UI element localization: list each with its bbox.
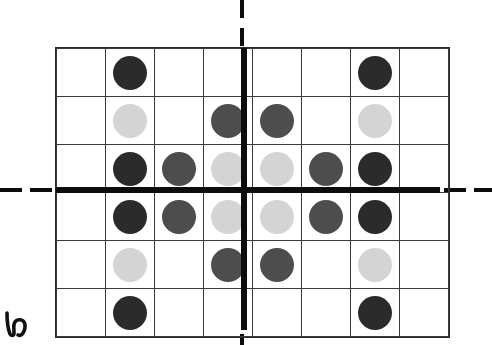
grid-row <box>57 97 449 145</box>
cell-content <box>106 241 154 288</box>
grid-cell[interactable] <box>57 193 106 241</box>
cell-content <box>57 289 105 336</box>
grid-cell[interactable] <box>302 145 351 193</box>
lattice-diagram <box>0 0 492 345</box>
site-dot-medium <box>162 152 196 186</box>
grid-row <box>57 289 449 337</box>
grid-cell[interactable] <box>400 49 449 97</box>
grid-cell[interactable] <box>253 193 302 241</box>
dashed-axis-top-1 <box>240 0 244 18</box>
site-dot-dark <box>113 200 147 234</box>
cell-content <box>155 97 203 144</box>
grid-container <box>56 48 440 330</box>
grid-cell[interactable] <box>253 145 302 193</box>
cell-content <box>253 241 301 288</box>
grid-cell[interactable] <box>253 241 302 289</box>
site-dot-medium <box>162 200 196 234</box>
grid-cell[interactable] <box>155 193 204 241</box>
grid-row <box>57 145 449 193</box>
site-dot-medium <box>309 152 343 186</box>
site-dot-dark <box>358 296 392 330</box>
cell-content <box>155 289 203 336</box>
grid-cell[interactable] <box>302 193 351 241</box>
cell-content <box>400 289 448 336</box>
cell-content <box>302 193 350 240</box>
grid-cell[interactable] <box>106 289 155 337</box>
grid-cell[interactable] <box>253 97 302 145</box>
grid-cell[interactable] <box>155 49 204 97</box>
grid-cell[interactable] <box>400 97 449 145</box>
cell-content <box>351 289 399 336</box>
cell-content <box>57 241 105 288</box>
cell-content <box>400 49 448 96</box>
cell-content <box>351 97 399 144</box>
cell-content <box>351 241 399 288</box>
cell-content <box>106 145 154 192</box>
cell-content <box>155 145 203 192</box>
cell-content <box>351 145 399 192</box>
grid-cell[interactable] <box>106 145 155 193</box>
grid-cell[interactable] <box>302 97 351 145</box>
grid-cell[interactable] <box>302 49 351 97</box>
site-dot-dark <box>358 56 392 90</box>
site-dot-dark <box>358 152 392 186</box>
grid-cell[interactable] <box>253 289 302 337</box>
cell-content <box>400 241 448 288</box>
grid-cell[interactable] <box>155 97 204 145</box>
grid-cell[interactable] <box>155 289 204 337</box>
cell-content <box>253 49 301 96</box>
cell-content <box>155 193 203 240</box>
grid-cell[interactable] <box>57 49 106 97</box>
grid-cell[interactable] <box>57 289 106 337</box>
grid-cell[interactable] <box>400 241 449 289</box>
grid-cell[interactable] <box>106 97 155 145</box>
site-dot-light <box>260 152 294 186</box>
site-dot-light <box>358 104 392 138</box>
cell-content <box>253 97 301 144</box>
grid-cell[interactable] <box>351 289 400 337</box>
site-dot-dark <box>113 56 147 90</box>
grid-cell[interactable] <box>400 145 449 193</box>
grid-cell[interactable] <box>302 289 351 337</box>
grid-row <box>57 193 449 241</box>
cell-content <box>302 241 350 288</box>
corner-annotation-icon <box>2 303 42 343</box>
grid-cell[interactable] <box>106 193 155 241</box>
grid-cell[interactable] <box>351 241 400 289</box>
site-dot-medium <box>260 104 294 138</box>
grid-cell[interactable] <box>400 193 449 241</box>
grid-cell[interactable] <box>253 49 302 97</box>
cell-content <box>253 145 301 192</box>
cell-content <box>106 193 154 240</box>
grid-cell[interactable] <box>106 49 155 97</box>
grid-cell[interactable] <box>351 49 400 97</box>
site-dot-medium <box>260 248 294 282</box>
grid-cell[interactable] <box>302 241 351 289</box>
site-dot-dark <box>358 200 392 234</box>
site-dot-light <box>113 104 147 138</box>
cell-content <box>155 49 203 96</box>
cell-content <box>57 49 105 96</box>
cell-content <box>400 193 448 240</box>
grid-cell[interactable] <box>57 241 106 289</box>
grid-cell[interactable] <box>351 145 400 193</box>
cell-content <box>351 193 399 240</box>
horizontal-symmetry-axis <box>56 187 440 193</box>
grid-cell[interactable] <box>351 193 400 241</box>
grid-cell[interactable] <box>351 97 400 145</box>
cell-content <box>302 49 350 96</box>
cell-content <box>253 193 301 240</box>
cell-content <box>106 49 154 96</box>
grid-cell[interactable] <box>106 241 155 289</box>
grid-cell[interactable] <box>57 97 106 145</box>
vertical-symmetry-axis <box>241 48 247 330</box>
cell-content <box>106 289 154 336</box>
grid-cell[interactable] <box>400 289 449 337</box>
grid-cell[interactable] <box>155 145 204 193</box>
cell-content <box>106 97 154 144</box>
grid-cell[interactable] <box>57 145 106 193</box>
site-dot-dark <box>113 152 147 186</box>
grid-cell[interactable] <box>155 241 204 289</box>
cell-content <box>57 193 105 240</box>
dashed-axis-top-2 <box>240 28 244 46</box>
